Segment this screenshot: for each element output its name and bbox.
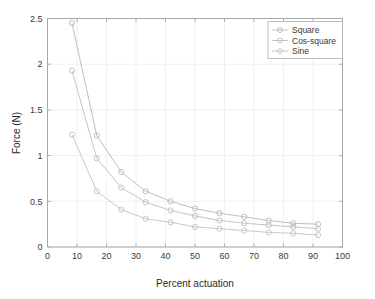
x-tick-label: 80 [278,251,288,261]
x-axis-title: Percent actuation [156,278,234,289]
legend-entry-label: Square [292,25,320,35]
line-chart: 0102030405060708090100 00.511.522.5 Perc… [0,0,375,299]
legend-entry-label: Sine [292,46,309,56]
x-tick-label: 10 [72,251,82,261]
x-tick-label: 100 [335,251,350,261]
x-tick-label: 50 [190,251,200,261]
figure-canvas: 0102030405060708090100 00.511.522.5 Perc… [0,0,375,299]
chart-legend[interactable]: SquareCos-squareSine [268,22,343,59]
y-tick-label: 0.5 [30,197,43,207]
x-tick-label: 60 [219,251,229,261]
y-tick-label: 0 [37,242,42,252]
x-tick-label: 70 [249,251,259,261]
x-tick-label: 0 [45,251,50,261]
y-tick-label: 1.5 [30,105,43,115]
legend-entry-label: Cos-square [292,36,336,46]
x-tick-label: 30 [131,251,141,261]
y-tick-label: 1 [37,151,42,161]
y-tick-label: 2 [37,59,42,69]
y-axis-title: Force (N) [11,112,22,154]
x-tick-label: 40 [160,251,170,261]
x-tick-label: 90 [308,251,318,261]
x-tick-label: 20 [101,251,111,261]
y-tick-label: 2.5 [30,14,43,24]
